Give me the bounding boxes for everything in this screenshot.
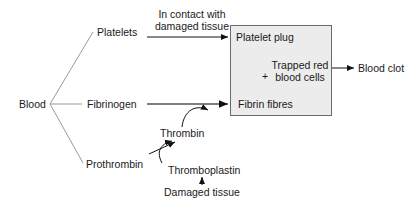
platelet-plug-label: Platelet plug: [236, 31, 294, 43]
trapped-rbc-label: Trapped red blood cells: [270, 59, 330, 83]
prothrombin-label: Prothrombin: [86, 158, 143, 170]
fibrinogen-label: Fibrinogen: [87, 98, 137, 110]
platelets-label: Platelets: [97, 26, 137, 38]
blood-label: Blood: [19, 98, 46, 110]
thrombin-label: Thrombin: [160, 127, 204, 139]
blood-clot-label: Blood clot: [358, 62, 404, 74]
plus-sign: +: [262, 70, 268, 82]
damaged-tissue-label: Damaged tissue: [164, 186, 240, 198]
thromboplastin-label: Thromboplastin: [168, 164, 240, 176]
fibrin-fibres-label: Fibrin fibres: [238, 98, 293, 110]
contact-note: In contact with damaged tissue: [148, 8, 236, 32]
